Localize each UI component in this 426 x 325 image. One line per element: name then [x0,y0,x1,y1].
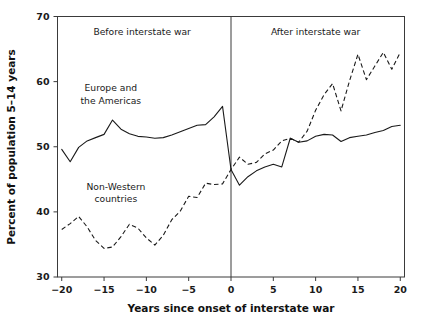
after-war-label: After interstate war [271,26,361,37]
y-tick-label: 40 [36,206,50,217]
y-tick-label: 60 [36,76,50,87]
x-tick-label: −15 [93,284,114,295]
x-tick-label: −5 [181,284,196,295]
x-tick-label: 15 [351,284,364,295]
x-axis-ticks [62,277,401,281]
y-tick-label: 70 [36,11,50,22]
x-tick-label: −10 [136,284,158,295]
y-axis-ticks [54,17,58,278]
y-tick-label: 30 [36,271,50,282]
y-tick-label: 50 [36,141,50,152]
y-axis-title: Percent of population 5–14 years [5,49,17,245]
x-tick-label: −20 [51,284,73,295]
series-label-europe-line1: Europe and [85,82,138,93]
chart-figure: −20−15−10−505101520 3040506070 Years sin… [0,0,426,325]
x-axis-tick-labels: −20−15−10−505101520 [51,284,407,295]
before-war-label: Before interstate war [93,26,191,37]
series-label-europe-line2: the Americas [80,95,141,106]
y-axis-tick-labels: 3040506070 [36,11,50,283]
series-label-nonwestern-line2: countries [95,193,138,204]
chart-canvas: −20−15−10−505101520 3040506070 Years sin… [0,0,426,325]
x-tick-label: 10 [309,284,323,295]
x-tick-label: 0 [228,284,235,295]
x-tick-label: 20 [394,284,408,295]
x-tick-label: 5 [270,284,277,295]
series-label-nonwestern-line1: Non-Western [86,181,145,192]
x-axis-title: Years since onset of interstate war [127,302,336,314]
